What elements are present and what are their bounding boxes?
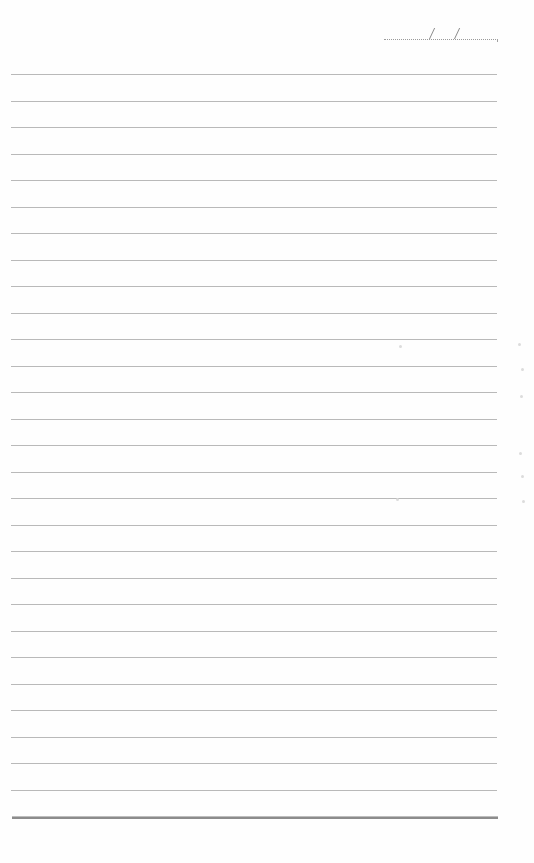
ruled-line[interactable]: [11, 180, 497, 181]
ruled-line[interactable]: [11, 684, 497, 685]
ruled-line[interactable]: [11, 74, 497, 75]
ruled-line[interactable]: [11, 551, 497, 552]
ruled-line[interactable]: [11, 260, 497, 261]
bleed-mark: [520, 395, 523, 398]
date-separator-slash: [454, 28, 460, 39]
ruled-line[interactable]: [11, 790, 497, 791]
ruled-line[interactable]: [11, 763, 497, 764]
bottom-rule: [12, 816, 498, 819]
ruled-line[interactable]: [11, 419, 497, 420]
ruled-line[interactable]: [11, 154, 497, 155]
bleed-mark: [518, 343, 521, 346]
bleed-mark: [521, 475, 524, 478]
ruled-line[interactable]: [11, 313, 497, 314]
ruled-line[interactable]: [11, 286, 497, 287]
ruled-line[interactable]: [11, 631, 497, 632]
bleed-mark: [522, 500, 525, 503]
date-dotted-line: [384, 39, 498, 40]
ruled-line[interactable]: [11, 498, 497, 499]
ruled-line[interactable]: [11, 737, 497, 738]
ruled-line[interactable]: [11, 366, 497, 367]
ruled-line[interactable]: [11, 233, 497, 234]
ruled-line[interactable]: [11, 127, 497, 128]
ruled-line[interactable]: [11, 445, 497, 446]
ruled-line[interactable]: [11, 392, 497, 393]
notebook-page: [0, 0, 534, 863]
date-end-tick: [497, 39, 498, 42]
ruled-line[interactable]: [11, 525, 497, 526]
ruled-line[interactable]: [11, 578, 497, 579]
date-separator-slash: [429, 28, 435, 39]
bleed-mark: [399, 345, 402, 348]
ruled-line[interactable]: [11, 207, 497, 208]
date-field[interactable]: [384, 26, 498, 42]
bleed-mark: [521, 368, 524, 371]
ruled-line[interactable]: [11, 101, 497, 102]
ruled-line[interactable]: [11, 472, 497, 473]
ruled-line[interactable]: [11, 710, 497, 711]
ruled-line[interactable]: [11, 339, 497, 340]
ruled-line[interactable]: [11, 657, 497, 658]
bleed-mark: [519, 452, 522, 455]
bleed-mark: [396, 498, 399, 501]
ruled-line[interactable]: [11, 604, 497, 605]
